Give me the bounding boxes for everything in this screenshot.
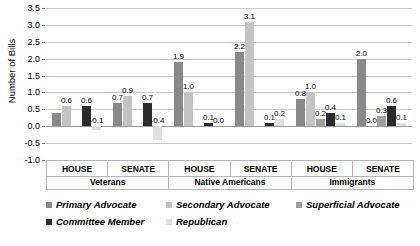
legend-label: Secondary Advocate	[176, 199, 270, 210]
bar-slot: 0.6	[387, 8, 396, 160]
y-axis-tick-mark	[42, 109, 45, 110]
bar-value-label: 1.0	[183, 82, 194, 91]
bar	[296, 99, 305, 126]
y-axis-tick: 1.0	[0, 87, 40, 97]
legend-label: Primary Advocate	[56, 199, 136, 210]
bar-slot: -0.1	[92, 8, 101, 160]
bar	[306, 92, 315, 126]
bar-value-label: 0.0	[213, 116, 224, 125]
bar-slot	[72, 8, 81, 160]
subgroup: 2.00.00.30.60.1	[351, 8, 412, 160]
y-axis-tick-mark	[42, 76, 45, 77]
legend-row-2: Committee MemberRepublican	[46, 213, 420, 230]
bar-value-label: 0.6	[386, 96, 397, 105]
bar	[92, 126, 101, 129]
legend-row-1: Primary AdvocateSecondary AdvocateSuperf…	[46, 196, 420, 213]
legend-item[interactable]: Republican	[166, 216, 296, 227]
y-axis-tick-mark	[42, 92, 45, 93]
x-axis-group-row: VeteransNative AmericansImmigrants	[46, 175, 414, 190]
subgroup: 0.60.6-0.1	[46, 8, 107, 160]
bar-slot: 0.7	[113, 8, 122, 160]
bar-value-label: 0.1	[396, 113, 407, 122]
bar-slot: 2.2	[235, 8, 244, 160]
y-axis-tick: 3.0	[0, 20, 40, 30]
x-axis-subgroup-label: HOUSE	[47, 161, 108, 176]
legend-swatch-icon	[46, 219, 52, 225]
x-axis-subgroup-label: SENATE	[108, 161, 169, 176]
bar-value-label: 0.7	[142, 93, 153, 102]
bar-value-label: 0.2	[274, 109, 285, 118]
y-axis-tick: 3.5	[0, 3, 40, 13]
bar-value-label: -0.4	[151, 116, 165, 125]
bar	[275, 119, 284, 126]
bar	[174, 62, 183, 126]
bar-value-label: 1.9	[173, 52, 184, 61]
bar-value-label: 2.0	[356, 49, 367, 58]
x-axis-group-label: Native Americans	[169, 175, 291, 189]
bar-slot: 0.2	[275, 8, 284, 160]
bar	[204, 123, 213, 126]
bar	[62, 106, 71, 126]
bar-slot: 2.0	[357, 8, 366, 160]
y-axis-tick: 0.5	[0, 104, 40, 114]
x-axis-group-label: Immigrants	[292, 175, 413, 189]
bar-slot: 0.6	[82, 8, 91, 160]
bar-slot: 3.1	[245, 8, 254, 160]
bar	[123, 96, 132, 126]
bar	[235, 52, 244, 126]
bar	[377, 116, 386, 126]
bar-slot: 0.4	[326, 8, 335, 160]
bar-value-label: 0.9	[122, 86, 133, 95]
legend-label: Superficial Advocate	[306, 199, 400, 210]
y-axis-tick: 0.0	[0, 121, 40, 131]
legend-item[interactable]: Superficial Advocate	[296, 199, 420, 210]
bar-slot: 1.0	[306, 8, 315, 160]
bar-chart: Number of Bills 3.53.02.52.01.51.00.50.0…	[0, 0, 420, 246]
bar	[357, 59, 366, 127]
supergroup: 0.60.6-0.10.70.90.7-0.4	[46, 8, 168, 160]
legend-item[interactable]: Committee Member	[46, 216, 166, 227]
legend-swatch-icon	[166, 202, 172, 208]
legend-swatch-icon	[46, 202, 52, 208]
bar	[184, 92, 193, 126]
legend-item[interactable]: Primary Advocate	[46, 199, 166, 210]
y-axis-tick-mark	[42, 143, 45, 144]
x-axis-subgroup-label: HOUSE	[292, 161, 353, 176]
x-axis-subgroup-label: HOUSE	[169, 161, 230, 176]
y-axis-tick-mark	[42, 126, 45, 127]
legend-swatch-icon	[296, 202, 302, 208]
subgroup: 2.23.10.10.2	[229, 8, 290, 160]
bar-groups: 0.60.6-0.10.70.90.7-0.41.91.00.10.02.23.…	[46, 8, 412, 160]
y-axis-tick: 1.5	[0, 71, 40, 81]
bar-slot: 0.1	[397, 8, 406, 160]
bar-slot: 0.1	[265, 8, 274, 160]
bar-value-label: 0.6	[81, 96, 92, 105]
y-axis-tick: 2.0	[0, 54, 40, 64]
y-axis-tick: -0.5	[0, 138, 40, 148]
bar-slot: 0.7	[143, 8, 152, 160]
bar	[265, 123, 274, 126]
bar-slot	[255, 8, 264, 160]
legend-label: Committee Member	[56, 216, 144, 227]
bar-slot: 0.9	[123, 8, 132, 160]
bar-value-label: 0.3	[376, 106, 387, 115]
x-axis-subgroup-label: SENATE	[353, 161, 413, 176]
legend-swatch-icon	[166, 219, 172, 225]
bar	[336, 123, 345, 126]
bar	[326, 113, 335, 127]
subgroup: 0.70.90.7-0.4	[107, 8, 168, 160]
legend-item[interactable]: Secondary Advocate	[166, 199, 296, 210]
bar-slot: 0.1	[336, 8, 345, 160]
bar-slot: 0.3	[377, 8, 386, 160]
y-axis-tick: -1.0	[0, 155, 40, 165]
bar-slot: 0.0	[214, 8, 223, 160]
bar-value-label: 3.1	[244, 12, 255, 21]
bar-slot: 0.0	[367, 8, 376, 160]
bar-value-label: 2.2	[234, 42, 245, 51]
x-axis-group-label: Veterans	[47, 175, 169, 189]
legend-label: Republican	[176, 216, 227, 227]
y-axis-tick: 2.5	[0, 37, 40, 47]
y-axis-tick-mark	[42, 8, 45, 9]
bar-value-label: 1.0	[305, 82, 316, 91]
bar-value-label: 0.6	[61, 96, 72, 105]
